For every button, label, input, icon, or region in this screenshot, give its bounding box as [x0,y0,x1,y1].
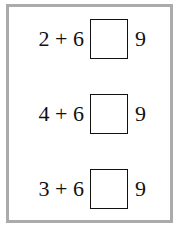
comparison-row: 3 + 6 9 [9,169,170,209]
expression: 3 + 6 [39,177,84,201]
expression: 4 + 6 [39,102,84,126]
comparison-answer-box[interactable] [90,94,128,134]
comparison-answer-box[interactable] [90,19,128,59]
comparison-row: 2 + 6 9 [9,19,170,59]
compare-value: 9 [135,177,146,201]
worksheet-frame: 2 + 6 9 4 + 6 9 3 + 6 9 [6,4,173,223]
compare-value: 9 [135,102,146,126]
comparison-row: 4 + 6 9 [9,94,170,134]
expression: 2 + 6 [39,27,84,51]
compare-value: 9 [135,27,146,51]
comparison-answer-box[interactable] [90,169,128,209]
